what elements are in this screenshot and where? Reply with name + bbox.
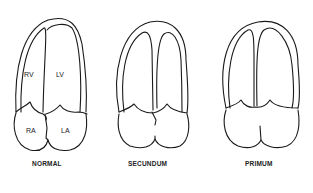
heart-diagram: RV LV RA LA NORMAL SECUNDUM PRIMUM	[0, 0, 313, 193]
caption-primum: PRIMUM	[245, 160, 273, 167]
caption-secundum: SECUNDUM	[128, 160, 167, 167]
primum-heart: PRIMUM	[223, 21, 300, 167]
lv-label: LV	[56, 71, 64, 78]
normal-heart: RV LV RA LA NORMAL	[14, 18, 87, 167]
la-label: LA	[61, 127, 70, 134]
ra-label: RA	[26, 127, 36, 134]
secundum-heart: SECUNDUM	[117, 21, 189, 167]
rv-label: RV	[24, 71, 34, 78]
caption-normal: NORMAL	[32, 160, 62, 167]
